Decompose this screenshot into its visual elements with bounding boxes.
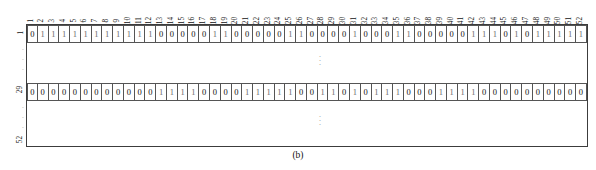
column-header-label: 39: [437, 17, 444, 24]
matrix-cell: 0: [27, 25, 38, 43]
column-header-label: 12: [146, 17, 153, 24]
column-header-cell: 36: [403, 0, 414, 24]
matrix-cell: 1: [350, 83, 361, 101]
column-header-label: 8: [103, 19, 110, 23]
column-header-cell: 8: [101, 0, 112, 24]
column-header-cell: 7: [91, 0, 102, 24]
matrix-cell: 1: [511, 25, 522, 43]
matrix-cell: 0: [447, 25, 458, 43]
vertical-ellipsis-upper: ···: [315, 55, 325, 67]
column-header-cell: 47: [521, 0, 532, 24]
column-header-label: 45: [501, 17, 508, 24]
column-header-cell: 19: [220, 0, 231, 24]
matrix-cell: 0: [372, 25, 383, 43]
matrix-cell: 0: [339, 83, 350, 101]
column-header-label: 48: [534, 17, 541, 24]
matrix-cell: 0: [210, 83, 221, 101]
column-header-cell: 14: [166, 0, 177, 24]
matrix-cell: 1: [145, 25, 156, 43]
column-header-cell: 39: [435, 0, 446, 24]
column-header-label: 4: [60, 19, 67, 23]
matrix-cell: 0: [242, 25, 253, 43]
matrix-cell: 1: [156, 83, 167, 101]
matrix-cell: 1: [124, 25, 135, 43]
column-header-label: 24: [275, 17, 282, 24]
column-header-cell: 40: [446, 0, 457, 24]
column-header-cell: 46: [510, 0, 521, 24]
matrix-cell: 0: [425, 83, 436, 101]
column-header-cell: 10: [123, 0, 134, 24]
matrix-cell: 0: [511, 83, 522, 101]
column-header-label: 31: [351, 17, 358, 24]
column-header-label: 5: [71, 19, 78, 23]
matrix-cell: 0: [328, 25, 339, 43]
matrix-cell: 0: [425, 25, 436, 43]
matrix-cell: 1: [576, 25, 587, 43]
column-header-cell: 24: [274, 0, 285, 24]
column-header-cell: 2: [37, 0, 48, 24]
matrix-body: 0111111111110000011000001100001000110000…: [26, 24, 588, 147]
matrix-cell: 0: [382, 25, 393, 43]
matrix-cell: 0: [178, 25, 189, 43]
matrix-cell: 0: [145, 83, 156, 101]
column-header-label: 25: [286, 17, 293, 24]
column-header-label: 7: [92, 19, 99, 23]
matrix-cell: 1: [264, 83, 275, 101]
column-header-label: 50: [555, 17, 562, 24]
column-header-cell: 3: [48, 0, 59, 24]
matrix-cell: 0: [199, 83, 210, 101]
matrix-cell: 0: [27, 83, 38, 101]
vertical-ellipsis-lower: ···: [315, 115, 325, 127]
matrix-cell: 0: [59, 83, 70, 101]
column-header-label: 16: [189, 17, 196, 24]
column-header-label: 27: [308, 17, 315, 24]
column-header-label: 35: [394, 17, 401, 24]
column-header-label: 26: [297, 17, 304, 24]
matrix-cell: 0: [113, 83, 124, 101]
column-header-cell: 5: [69, 0, 80, 24]
matrix-cell: 1: [447, 83, 458, 101]
matrix-cell: 0: [522, 83, 533, 101]
column-header-label: 44: [491, 17, 498, 24]
matrix-cell: 1: [242, 83, 253, 101]
matrix-cell: 0: [49, 83, 60, 101]
column-header-label: 32: [362, 17, 369, 24]
column-header-cell: 17: [198, 0, 209, 24]
binary-matrix-figure: 1234567891011121314151617181920212223242…: [0, 0, 596, 170]
column-header-cell: 31: [349, 0, 360, 24]
column-header-label: 21: [243, 17, 250, 24]
row-label-ellipsis-dot: ·: [2, 115, 24, 122]
column-header-cell: 43: [478, 0, 489, 24]
column-header-label: 52: [577, 17, 584, 24]
column-header-label: 19: [222, 17, 229, 24]
column-header-label: 10: [125, 17, 132, 24]
matrix-cell: 0: [458, 25, 469, 43]
matrix-cell: 1: [102, 25, 113, 43]
row-label-last: 52: [2, 136, 24, 143]
column-header-label: 42: [469, 17, 476, 24]
matrix-cell: 1: [38, 25, 49, 43]
column-header-row: 1234567891011121314151617181920212223242…: [26, 0, 586, 24]
matrix-cell: 0: [533, 83, 544, 101]
matrix-cell: 1: [49, 25, 60, 43]
column-header-label: 41: [458, 17, 465, 24]
column-header-label: 34: [383, 17, 390, 24]
matrix-cell: 0: [544, 83, 555, 101]
column-header-cell: 4: [58, 0, 69, 24]
matrix-cell: 1: [92, 25, 103, 43]
matrix-cell: 0: [81, 83, 92, 101]
matrix-cell: 1: [468, 25, 479, 43]
matrix-cell: 1: [178, 83, 189, 101]
row-label-first: 1: [2, 29, 24, 36]
column-header-cell: 26: [295, 0, 306, 24]
matrix-cell: 0: [38, 83, 49, 101]
column-header-label: 29: [329, 17, 336, 24]
matrix-cell: 1: [555, 25, 566, 43]
column-header-label: 2: [39, 19, 46, 23]
column-header-cell: 34: [381, 0, 392, 24]
matrix-cell: 1: [404, 25, 415, 43]
matrix-cell: 1: [70, 25, 81, 43]
column-header-cell: 21: [241, 0, 252, 24]
column-header-label: 38: [426, 17, 433, 24]
matrix-cell: 0: [415, 25, 426, 43]
